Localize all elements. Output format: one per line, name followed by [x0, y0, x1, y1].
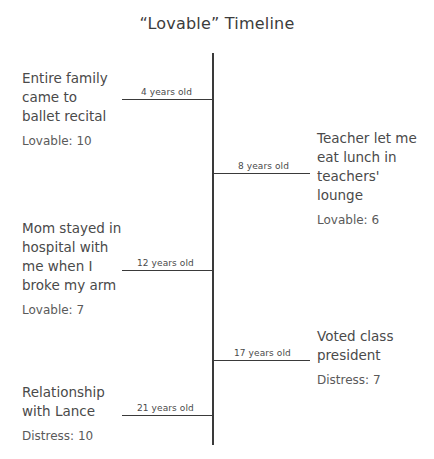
age-label-8-years: 8 years old [238, 161, 289, 171]
event-description: Relationship with Lance [22, 383, 140, 421]
event-score: Lovable: 6 [317, 212, 434, 228]
event-description: Mom stayed in hospital with me when I br… [22, 219, 140, 295]
timeline-axis [212, 53, 214, 445]
age-label-17-years: 17 years old [234, 348, 291, 358]
event-description: Voted class president [317, 327, 434, 365]
event-score: Lovable: 7 [22, 302, 140, 318]
timeline-event-ballet-recital: Entire family came to ballet recital Lov… [22, 69, 140, 149]
event-description: Teacher let me eat lunch in teachers' lo… [317, 129, 434, 205]
timeline-event-relationship-lance: Relationship with Lance Distress: 10 [22, 383, 140, 444]
event-score: Distress: 7 [317, 372, 434, 388]
age-label-4-years: 4 years old [141, 87, 192, 97]
timeline-event-broken-arm: Mom stayed in hospital with me when I br… [22, 219, 140, 318]
event-score: Distress: 10 [22, 428, 140, 444]
age-label-12-years: 12 years old [137, 258, 194, 268]
event-description: Entire family came to ballet recital [22, 69, 140, 126]
timeline-connector-17-years [213, 360, 310, 361]
timeline-connector-8-years [213, 173, 310, 174]
timeline-event-teachers-lounge: Teacher let me eat lunch in teachers' lo… [317, 129, 434, 228]
event-score: Lovable: 10 [22, 133, 140, 149]
age-label-21-years: 21 years old [137, 403, 194, 413]
timeline-event-class-president: Voted class president Distress: 7 [317, 327, 434, 388]
page-title: “Lovable” Timeline [0, 14, 434, 33]
